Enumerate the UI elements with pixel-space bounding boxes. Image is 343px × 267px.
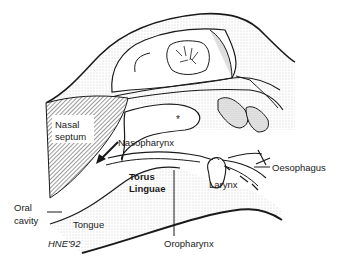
- label-nasal-septum-1: Nasal: [55, 119, 79, 130]
- label-signature: HNE'92: [48, 238, 80, 249]
- label-tongue: Tongue: [73, 219, 104, 230]
- label-oral-cavity-2: cavity: [14, 215, 38, 226]
- label-oesophagus: Oesophagus: [272, 162, 326, 173]
- label-torus-1: Torus: [129, 171, 155, 182]
- label-oropharynx: Oropharynx: [164, 238, 214, 249]
- nasal-septum-region: [46, 96, 128, 198]
- label-larynx: Larynx: [209, 179, 238, 190]
- label-torus-2: Linguae: [129, 183, 165, 194]
- label-asterisk: *: [176, 114, 180, 125]
- anatomy-diagram: [0, 0, 343, 267]
- label-oral-cavity-1: Oral: [14, 202, 32, 213]
- label-nasal-septum-2: septum: [55, 131, 86, 142]
- label-nasopharynx: Nasopharynx: [118, 137, 174, 148]
